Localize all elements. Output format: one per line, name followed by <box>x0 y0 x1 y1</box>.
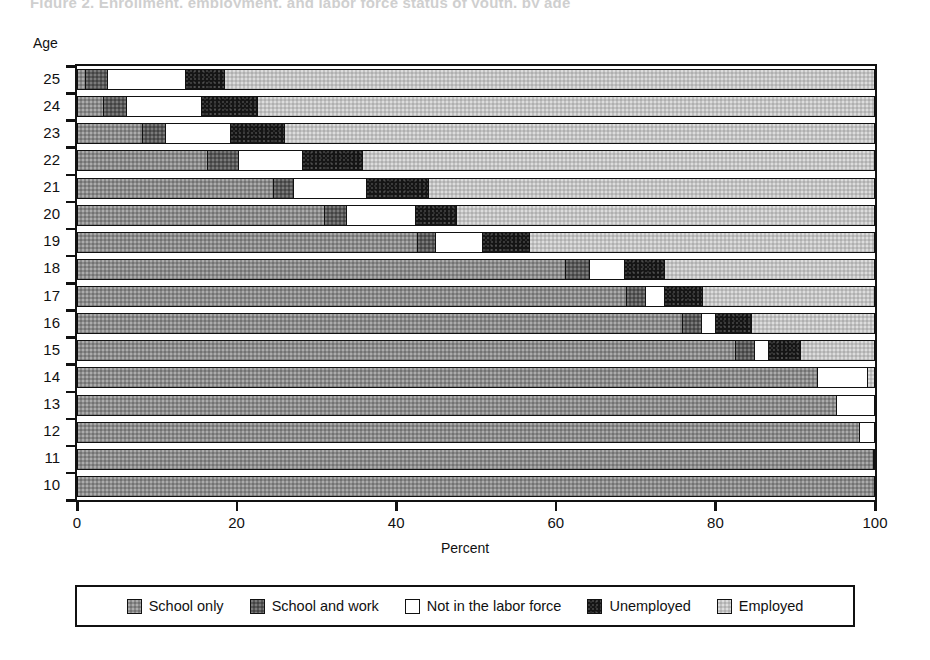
y-axis-tick-label: 14 <box>30 368 60 385</box>
bar-segment <box>682 313 701 334</box>
bar-segment <box>142 123 165 144</box>
x-axis-tick-label: 100 <box>845 514 905 531</box>
bar-segment <box>565 259 588 280</box>
legend-label: Unemployed <box>609 598 690 614</box>
bar-row <box>77 96 875 117</box>
bar-row <box>77 123 875 144</box>
bar-segment <box>77 395 836 416</box>
bar-row <box>77 476 875 497</box>
y-axis-tick-label: 22 <box>30 151 60 168</box>
bar-segment <box>664 286 702 307</box>
bar-segment <box>324 205 346 226</box>
bar-segment <box>77 286 626 307</box>
bar-row <box>77 178 875 199</box>
y-axis-tick-label: 20 <box>30 205 60 222</box>
bar-segment <box>77 422 859 443</box>
bar-segment <box>836 395 875 416</box>
bar-segment <box>224 69 875 90</box>
bar-row <box>77 69 875 90</box>
bar-row <box>77 313 875 334</box>
legend-item-employed[interactable]: Employed <box>717 598 803 614</box>
y-axis-tick-label: 23 <box>30 124 60 141</box>
y-axis-tick-label: 17 <box>30 287 60 304</box>
bar-segment <box>77 232 417 253</box>
bar-segment <box>77 150 207 171</box>
bar-segment <box>873 449 875 470</box>
y-axis-tick-label: 10 <box>30 476 60 493</box>
x-axis-title: Percent <box>0 540 930 556</box>
bar-segment <box>751 313 875 334</box>
bar-segment <box>77 340 735 361</box>
plot-frame-top <box>77 64 875 66</box>
legend-item-not-in-labor-force[interactable]: Not in the labor force <box>405 598 562 614</box>
legend-item-unemployed[interactable]: Unemployed <box>587 598 690 614</box>
bar-segment <box>664 259 875 280</box>
bar-segment <box>645 286 663 307</box>
bar-row <box>77 422 875 443</box>
y-axis-tick-label: 24 <box>30 97 60 114</box>
bar-segment <box>482 232 529 253</box>
bar-segment <box>77 476 875 497</box>
x-axis-tick-label: 40 <box>366 514 426 531</box>
bar-segment <box>589 259 625 280</box>
bar-segment <box>817 367 867 388</box>
bar-segment <box>238 150 302 171</box>
bar-segment <box>415 205 456 226</box>
y-axis-tick-label: 19 <box>30 232 60 249</box>
bar-segment <box>77 313 682 334</box>
bar-segment <box>107 69 184 90</box>
plot-frame-bottom <box>77 500 875 502</box>
y-axis-tick-label: 18 <box>30 259 60 276</box>
bar-segment <box>867 367 875 388</box>
bar-segment <box>77 69 85 90</box>
legend-swatch-icon <box>127 599 142 614</box>
bar-segment <box>417 232 435 253</box>
legend-swatch-icon <box>587 599 602 614</box>
x-axis-tick-label: 20 <box>207 514 267 531</box>
bar-segment <box>257 96 875 117</box>
bar-segment <box>273 178 294 199</box>
bar-row <box>77 367 875 388</box>
bar-row <box>77 395 875 416</box>
legend-label: School and work <box>272 598 379 614</box>
legend-label: School only <box>149 598 224 614</box>
bar-segment <box>77 178 273 199</box>
y-axis-title: Age <box>33 35 58 51</box>
legend-swatch-icon <box>405 599 420 614</box>
bar-row <box>77 449 875 470</box>
y-axis-tick-label: 11 <box>30 449 60 466</box>
bar-segment <box>346 205 415 226</box>
bar-segment <box>77 367 817 388</box>
bar-segment <box>428 178 875 199</box>
bar-segment <box>103 96 127 117</box>
chart-plot-area <box>77 66 875 500</box>
bar-row <box>77 150 875 171</box>
legend-item-school-only[interactable]: School only <box>127 598 224 614</box>
y-axis-tick-label: 13 <box>30 395 60 412</box>
bar-row <box>77 232 875 253</box>
bar-segment <box>230 123 284 144</box>
y-axis-tick-label: 16 <box>30 314 60 331</box>
plot-frame-right <box>875 64 877 502</box>
bar-segment <box>77 96 103 117</box>
chart-legend: School onlySchool and workNot in the lab… <box>75 585 855 627</box>
legend-item-school-and-work[interactable]: School and work <box>250 598 379 614</box>
bar-segment <box>293 178 366 199</box>
y-axis-tick-label: 21 <box>30 178 60 195</box>
bar-segment <box>77 449 873 470</box>
legend-label: Employed <box>739 598 803 614</box>
bar-segment <box>735 340 753 361</box>
bar-segment <box>702 286 875 307</box>
y-axis-tick-label: 25 <box>30 70 60 87</box>
bar-segment <box>85 69 107 90</box>
bar-segment <box>77 259 565 280</box>
bar-segment <box>302 150 362 171</box>
x-axis-tick-label: 0 <box>47 514 107 531</box>
bar-segment <box>284 123 875 144</box>
bar-segment <box>456 205 875 226</box>
bar-segment <box>126 96 201 117</box>
bar-segment <box>185 69 224 90</box>
bar-row <box>77 286 875 307</box>
bar-segment <box>859 422 875 443</box>
y-axis-tick-label: 12 <box>30 422 60 439</box>
